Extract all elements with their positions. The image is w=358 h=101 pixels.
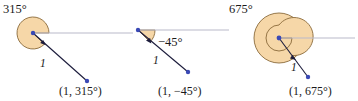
point-label-675: (1, 675°) bbox=[289, 85, 332, 97]
pole-dot-675 bbox=[277, 36, 282, 41]
angle-label-675: 675° bbox=[229, 3, 253, 16]
polar-angle-figure: 315° 1 (1, 315°) −45° 1 (1, −45°) 675° 1… bbox=[0, 0, 358, 101]
radius-label-675: 1 bbox=[291, 62, 297, 74]
point-dot-675 bbox=[306, 75, 310, 79]
